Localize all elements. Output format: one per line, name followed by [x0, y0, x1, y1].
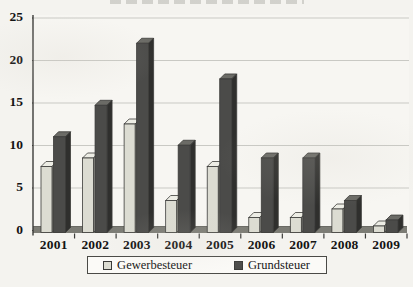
scanned-chart-page: in v. H. 0510152025 20012002200320042005… [0, 0, 413, 287]
y-axis-labels: 0510152025 [0, 15, 30, 245]
legend-item-gewerbesteuer: Gewerbesteuer [103, 258, 192, 273]
chart-legend: Gewerbesteuer Grundsteuer [87, 256, 327, 274]
y-tick-label: 10 [10, 137, 24, 153]
clipped-title-fragment [110, 0, 304, 4]
x-tick-label: 2003 [123, 237, 151, 253]
y-tick-label: 0 [16, 222, 23, 238]
x-tick-label: 2002 [81, 237, 109, 253]
x-tick-label: 2005 [206, 237, 234, 253]
x-axis-labels: 200120022003200420052006200720082009 [32, 237, 408, 255]
y-tick-label: 5 [16, 179, 23, 195]
x-tick-label: 2001 [40, 237, 68, 253]
y-tick-label: 25 [10, 9, 24, 25]
legend-item-grundsteuer: Grundsteuer [234, 258, 310, 273]
legend-label-0: Gewerbesteuer [117, 258, 192, 273]
bars-svg [32, 15, 410, 245]
x-tick-label: 2008 [331, 237, 359, 253]
legend-swatch-1 [234, 261, 243, 270]
y-tick-label: 15 [10, 94, 24, 110]
x-tick-label: 2004 [165, 237, 193, 253]
x-tick-label: 2006 [248, 237, 276, 253]
legend-swatch-0 [103, 261, 112, 270]
legend-label-1: Grundsteuer [248, 258, 310, 273]
x-tick-label: 2007 [289, 237, 317, 253]
x-tick-label: 2009 [372, 237, 400, 253]
y-tick-label: 20 [10, 52, 24, 68]
